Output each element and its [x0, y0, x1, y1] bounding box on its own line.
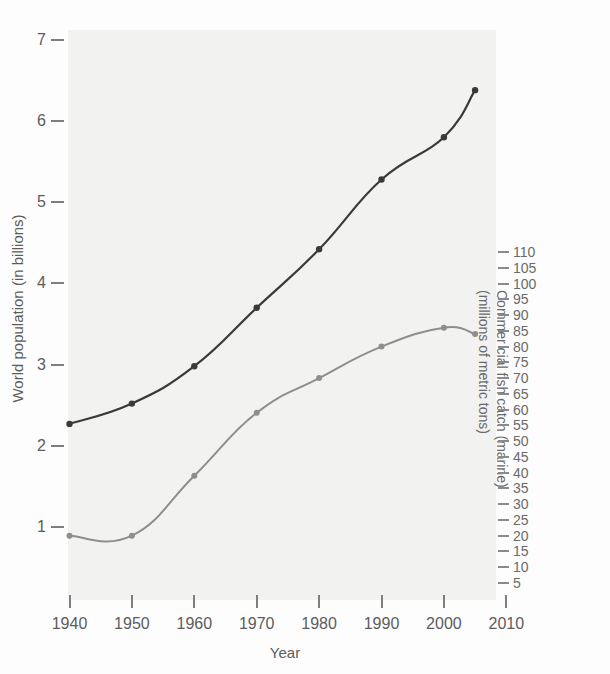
x-axis-tick-label: 1990 [364, 615, 400, 633]
x-axis-tick-label: 1980 [301, 615, 337, 633]
x-axis-tick-mark [318, 595, 320, 608]
x-axis-tick-mark [69, 595, 71, 608]
x-axis-tick-label: 1950 [114, 615, 150, 633]
bottom-axis: Year 19401950196019701980199020002010 [0, 0, 610, 674]
x-axis-tick-mark [381, 595, 383, 608]
x-axis-tick-label: 1970 [239, 615, 275, 633]
chart-figure: World population (in billions) 7654321 C… [0, 0, 610, 674]
x-axis-tick-label: 2000 [426, 615, 462, 633]
x-axis-tick-mark [131, 595, 133, 608]
x-axis-tick-label: 1960 [177, 615, 213, 633]
x-axis-tick-mark [505, 595, 507, 608]
x-axis-tick-mark [193, 595, 195, 608]
x-axis-tick-label: 1940 [52, 615, 88, 633]
x-axis-tick-mark [256, 595, 258, 608]
x-axis-tick-mark [443, 595, 445, 608]
x-axis-label: Year [0, 644, 570, 661]
x-axis-tick-label: 2010 [489, 615, 525, 633]
